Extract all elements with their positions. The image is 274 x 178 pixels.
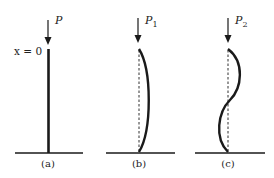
caption-c: (c) — [221, 158, 235, 169]
origin-label: x = 0 — [14, 45, 42, 57]
panel-b: P1 (b) — [106, 14, 175, 169]
load-arrow-b-icon — [135, 18, 142, 43]
load-arrow-a-icon — [45, 20, 52, 45]
caption-b: (b) — [132, 158, 146, 169]
panel-c: P2 (c) — [195, 14, 265, 169]
buckled-column-c — [219, 49, 240, 152]
load-label-a: P — [54, 14, 63, 27]
load-arrow-c-icon — [225, 18, 232, 43]
load-label-c: P2 — [234, 14, 248, 29]
caption-a: (a) — [41, 158, 55, 169]
load-label-b: P1 — [144, 14, 158, 29]
buckled-column-b — [139, 49, 149, 152]
column-buckling-diagram: P x = 0 (a) P1 (b) P2 (c) — [0, 0, 274, 178]
panel-a: P x = 0 (a) — [14, 14, 83, 169]
